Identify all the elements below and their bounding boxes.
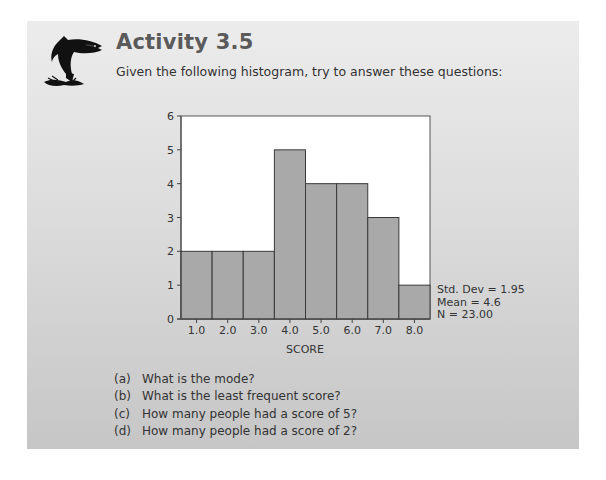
question-item: (a)What is the mode?: [114, 372, 357, 389]
histogram-bar: [181, 251, 212, 319]
x-tick-label: 1.0: [188, 324, 206, 337]
x-tick-label: 4.0: [281, 324, 299, 337]
y-axis: 0123456: [167, 110, 181, 326]
x-tick-label: 5.0: [312, 324, 330, 337]
y-tick-label: 6: [167, 110, 174, 123]
question-item: (b)What is the least frequent score?: [114, 389, 357, 406]
histogram-bar: [337, 184, 368, 319]
histogram-bars: [181, 116, 430, 319]
y-tick-label: 3: [167, 212, 174, 225]
y-tick-label: 1: [167, 279, 174, 292]
question-item: (c)How many people had a score of 5?: [114, 407, 357, 424]
x-tick-label: 6.0: [343, 324, 361, 337]
question-list: (a)What is the mode? (b)What is the leas…: [114, 372, 357, 442]
y-tick-label: 0: [167, 313, 174, 326]
histogram-bar: [212, 251, 243, 319]
y-tick-label: 5: [167, 144, 174, 157]
x-axis: 1.02.03.04.05.06.07.08.0: [177, 319, 430, 337]
histogram-bar: [368, 218, 399, 320]
y-tick-label: 2: [167, 245, 174, 258]
histogram-bar: [274, 150, 305, 319]
histogram-bar: [399, 285, 430, 319]
question-item: (d)How many people had a score of 2?: [114, 424, 357, 441]
histogram-bar: [243, 251, 274, 319]
y-tick-label: 4: [167, 178, 174, 191]
x-tick-label: 8.0: [406, 324, 424, 337]
x-tick-label: 2.0: [219, 324, 237, 337]
histogram-stats: Std. Dev = 1.95 Mean = 4.6 N = 23.00: [437, 284, 525, 322]
x-axis-label: SCORE: [286, 343, 324, 356]
x-tick-label: 7.0: [375, 324, 393, 337]
n-stat: N = 23.00: [437, 309, 525, 322]
histogram-bar: [306, 184, 337, 319]
x-tick-label: 3.0: [250, 324, 268, 337]
std-dev-stat: Std. Dev = 1.95: [437, 284, 525, 297]
